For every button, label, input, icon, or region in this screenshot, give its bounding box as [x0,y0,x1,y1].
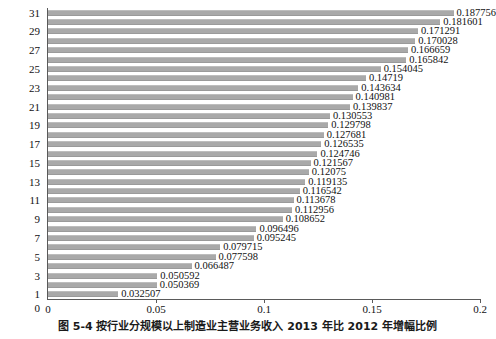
x-axis-tick-label: 0.2 [473,303,487,315]
y-axis-tick-label: 29 [29,26,40,36]
bar [48,216,283,222]
bar-value-label: 0.066487 [195,260,234,271]
bar [48,66,381,72]
bar-row: 0.124746 [48,151,480,157]
bar-row: 0.116542 [48,188,480,194]
bar [48,151,317,157]
bar-value-label: 0.050592 [160,270,199,281]
y-axis-tick-labels: 135791113151719212325272931 [0,8,44,300]
bar [48,85,358,91]
bar [48,75,366,81]
bar-row: 0.108652 [48,216,480,222]
bar-row: 0.14719 [48,75,480,81]
bar-row: 0.187756 [48,10,480,16]
bar-value-label: 0.095245 [257,232,296,243]
figure-caption: 图 5-4 按行业分规模以上制造业主营业务收入 2013 年比 2012 年增幅… [0,320,495,334]
bar-value-label: 0.113678 [297,194,336,205]
chart-plot-area: 135791113151719212325272931 0 0.0325070.… [0,0,495,316]
bar-row: 0.154045 [48,66,480,72]
y-axis-tick-label: 1 [35,289,41,299]
bar-row: 0.050369 [48,282,480,288]
x-axis-tick-label: 0.15 [362,303,381,315]
x-axis-tick-label: 0.1 [257,303,271,315]
bar [48,188,300,194]
bar-value-label: 0.124746 [320,148,359,159]
bar-value-label: 0.187756 [457,7,496,18]
y-axis-tick-label: 5 [35,252,41,262]
bar-value-label: 0.032507 [121,288,160,299]
bar-row: 0.112956 [48,207,480,213]
bar [48,235,254,241]
bar-row: 0.032507 [48,291,480,297]
y-axis-tick-label: 13 [29,177,40,187]
y-axis-tick-label: 17 [29,139,40,149]
bar-value-label: 0.116542 [303,185,342,196]
bar [48,132,324,138]
bar-value-label: 0.12075 [312,166,346,177]
bars-container: 0.0325070.0503690.0505920.0664870.077598… [48,8,480,299]
bar-value-label: 0.126535 [324,138,363,149]
y-axis-tick-label: 21 [29,102,40,112]
bar-row: 0.129798 [48,122,480,128]
bar-row: 0.140981 [48,94,480,100]
bar-value-label: 0.139837 [353,101,392,112]
bar [48,28,418,34]
bar-value-label: 0.127681 [327,129,366,140]
bar-value-label: 0.171291 [421,25,460,36]
bar-value-label: 0.112956 [295,204,334,215]
bar-row: 0.139837 [48,104,480,110]
bar-value-label: 0.170028 [418,35,457,46]
y-axis-tick-label: 19 [29,120,40,130]
bar-value-label: 0.165842 [409,54,448,65]
bar-row: 0.143634 [48,85,480,91]
y-axis-tick-label: 7 [35,233,41,243]
bar-row: 0.066487 [48,263,480,269]
bar-row: 0.121567 [48,160,480,166]
y-axis-tick-label: 11 [29,195,40,205]
x-axis-tick-labels: 00.050.10.150.2 [0,299,495,317]
bar [48,207,292,213]
bar [48,141,321,147]
bar [48,104,350,110]
bar-row: 0.126535 [48,141,480,147]
y-axis-tick-label: 23 [29,83,40,93]
bar [48,47,408,53]
bar-row: 0.181601 [48,19,480,25]
bar [48,57,406,63]
bar [48,282,157,288]
bar-value-label: 0.129798 [331,119,370,130]
bar [48,244,220,250]
bar-row: 0.12075 [48,169,480,175]
bar-row: 0.095245 [48,235,480,241]
bar-row: 0.050592 [48,273,480,279]
bar-row: 0.166659 [48,47,480,53]
bar-value-label: 0.050369 [160,279,199,290]
bar [48,113,330,119]
bar [48,291,118,297]
bar-value-label: 0.119135 [308,176,347,187]
bar-row: 0.170028 [48,38,480,44]
bar-value-label: 0.154045 [384,63,423,74]
bar [48,273,157,279]
bar-value-label: 0.121567 [314,157,353,168]
bar-row: 0.165842 [48,57,480,63]
bar [48,254,216,260]
bar [48,160,311,166]
bar-row: 0.119135 [48,179,480,185]
bar-value-label: 0.079715 [223,241,262,252]
y-axis-tick-label: 27 [29,45,40,55]
bar-row: 0.079715 [48,244,480,250]
bar [48,169,309,175]
bar-row: 0.127681 [48,132,480,138]
bar [48,226,256,232]
bar [48,197,294,203]
bar-value-label: 0.130553 [333,110,372,121]
bar-row: 0.171291 [48,28,480,34]
bar [48,122,328,128]
bar-value-label: 0.108652 [286,213,325,224]
y-axis-tick-label: 31 [29,8,40,18]
bar-value-label: 0.166659 [411,44,450,55]
bar-value-label: 0.077598 [219,251,258,262]
bar-value-label: 0.181601 [443,16,482,27]
